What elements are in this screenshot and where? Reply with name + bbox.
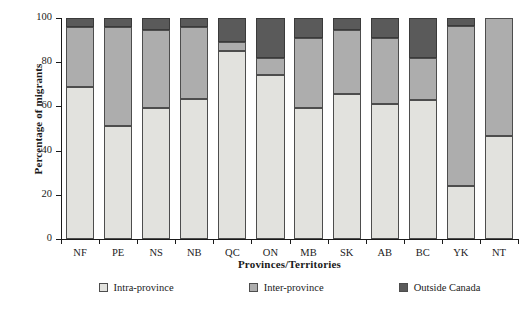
bar-segment-outside-canada: [218, 18, 246, 42]
bar-segment-intra-province: [409, 100, 437, 239]
bar-bc: [409, 18, 437, 239]
bar-segment-inter-province: [447, 26, 475, 186]
legend-item-inter-province: Inter-province: [249, 282, 324, 293]
bar-segment-inter-province: [104, 27, 132, 126]
x-tick: [99, 239, 100, 244]
y-axis-line: [61, 18, 62, 239]
bar-pe: [104, 18, 132, 239]
x-tick: [518, 239, 519, 244]
stacked-bar-chart: Percentage of migrants 020406080100 NFPE…: [0, 0, 530, 311]
x-tick: [61, 239, 62, 244]
bar-segment-inter-province: [333, 30, 361, 94]
bar-segment-outside-canada: [256, 18, 284, 58]
bar-segment-outside-canada: [371, 18, 399, 38]
bar-segment-intra-province: [256, 75, 284, 239]
bar-ab: [371, 18, 399, 239]
bar-segment-intra-province: [485, 136, 513, 239]
bar-segment-inter-province: [485, 18, 513, 136]
bar-segment-inter-province: [294, 38, 322, 108]
x-axis-title: Provinces/Territories: [61, 258, 518, 270]
bar-nf: [66, 18, 94, 239]
bar-segment-intra-province: [104, 126, 132, 239]
bar-segment-inter-province: [142, 30, 170, 107]
bar-segment-inter-province: [371, 38, 399, 104]
x-tick: [404, 239, 405, 244]
x-tick: [328, 239, 329, 244]
bar-segment-outside-canada: [104, 18, 132, 27]
legend-label: Intra-province: [114, 282, 174, 293]
x-tick: [251, 239, 252, 244]
bar-segment-intra-province: [371, 104, 399, 239]
bar-segment-intra-province: [180, 99, 208, 239]
bar-on: [256, 18, 284, 239]
y-tick: 20: [56, 195, 61, 196]
y-tick-label: 80: [42, 55, 53, 66]
y-tick-label: 20: [42, 188, 53, 199]
x-tick-label-qc: QC: [213, 247, 251, 258]
bar-segment-intra-province: [218, 51, 246, 239]
bar-yk: [447, 18, 475, 239]
x-tick-label-on: ON: [251, 247, 289, 258]
bar-segment-outside-canada: [333, 18, 361, 30]
bar-segment-outside-canada: [409, 18, 437, 58]
bar-qc: [218, 18, 246, 239]
bar-ns: [142, 18, 170, 239]
x-tick-label-nt: NT: [480, 247, 518, 258]
bar-segment-outside-canada: [180, 18, 208, 27]
bar-segment-inter-province: [218, 42, 246, 51]
chart-legend: Intra-provinceInter-provinceOutside Cana…: [61, 282, 518, 293]
bar-segment-inter-province: [409, 58, 437, 100]
y-tick-label: 0: [47, 232, 52, 243]
y-tick-label: 40: [42, 144, 53, 155]
bar-sk: [333, 18, 361, 239]
x-tick-label-ab: AB: [366, 247, 404, 258]
y-tick: 40: [56, 151, 61, 152]
x-tick-label-nf: NF: [61, 247, 99, 258]
x-tick-label-pe: PE: [99, 247, 137, 258]
y-tick-label: 100: [36, 11, 52, 22]
bar-nb: [180, 18, 208, 239]
bar-segment-intra-province: [142, 108, 170, 239]
bar-segment-outside-canada: [447, 18, 475, 26]
y-tick-label: 60: [42, 99, 53, 110]
legend-swatch-icon: [399, 283, 408, 292]
x-tick-label-nb: NB: [175, 247, 213, 258]
bar-segment-intra-province: [447, 186, 475, 239]
bar-segment-outside-canada: [142, 18, 170, 30]
x-tick: [175, 239, 176, 244]
y-tick: 80: [56, 62, 61, 63]
y-tick: 100: [56, 18, 61, 19]
bar-segment-intra-province: [333, 94, 361, 239]
x-tick-label-yk: YK: [442, 247, 480, 258]
bar-segment-intra-province: [294, 108, 322, 239]
bar-segment-inter-province: [256, 58, 284, 76]
legend-item-intra-province: Intra-province: [99, 282, 174, 293]
x-tick: [442, 239, 443, 244]
bar-segment-inter-province: [66, 27, 94, 87]
plot-area: 020406080100 NFPENSNBQCONMBSKABBCYKNT: [61, 18, 518, 239]
legend-label: Outside Canada: [414, 282, 481, 293]
bar-segment-intra-province: [66, 87, 94, 239]
legend-swatch-icon: [249, 283, 258, 292]
x-tick-label-mb: MB: [290, 247, 328, 258]
bar-segment-outside-canada: [66, 18, 94, 27]
legend-label: Inter-province: [264, 282, 324, 293]
x-tick: [137, 239, 138, 244]
x-tick: [290, 239, 291, 244]
x-tick: [213, 239, 214, 244]
bar-segment-outside-canada: [294, 18, 322, 38]
bar-segment-inter-province: [180, 27, 208, 99]
legend-swatch-icon: [99, 283, 108, 292]
x-tick: [366, 239, 367, 244]
bar-nt: [485, 18, 513, 239]
x-tick: [480, 239, 481, 244]
y-tick: 60: [56, 106, 61, 107]
x-tick-label-ns: NS: [137, 247, 175, 258]
x-tick-label-sk: SK: [328, 247, 366, 258]
legend-item-outside-canada: Outside Canada: [399, 282, 481, 293]
bar-mb: [294, 18, 322, 239]
x-tick-label-bc: BC: [404, 247, 442, 258]
